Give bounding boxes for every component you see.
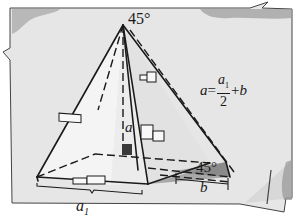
numerator-subscript: 1 — [225, 81, 229, 90]
pyramid-diagram — [0, 0, 306, 218]
formula-numerator: a1 — [217, 73, 230, 94]
formula-fraction: a1 2 — [217, 73, 230, 109]
formula-tail: b — [239, 82, 247, 99]
formula-plus: + — [231, 82, 239, 99]
numerator-letter: a — [218, 72, 225, 87]
apex-angle-label: 45° — [128, 11, 150, 27]
offset-label: b — [200, 180, 208, 195]
pyramid-illustration: 45° 45° a b a1 a = a1 2 + b — [0, 0, 306, 218]
formula: a = a1 2 + b — [200, 73, 247, 109]
base-angle-label: 45° — [196, 160, 217, 175]
base-width-subscript: 1 — [84, 206, 89, 217]
formula-lhs: a — [200, 82, 208, 99]
formula-equals: = — [208, 82, 216, 99]
base-width-label: a1 — [76, 198, 89, 217]
formula-denominator: 2 — [220, 94, 227, 109]
height-label: a — [125, 120, 133, 135]
right-angle-marker — [122, 144, 132, 155]
base-width-letter: a — [76, 197, 84, 214]
